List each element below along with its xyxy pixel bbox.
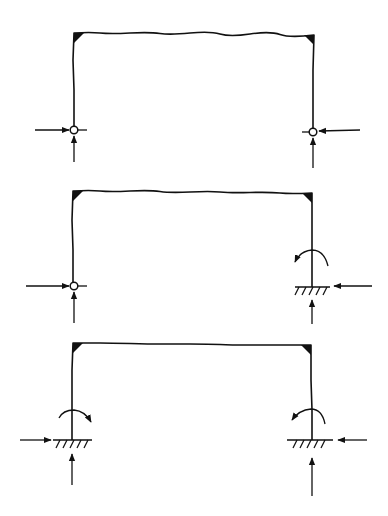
frame-2-right-fixed-support bbox=[295, 250, 372, 324]
frame-2-left-pin-support bbox=[26, 282, 87, 323]
frame-1-outline bbox=[73, 32, 314, 128]
pin-icon bbox=[309, 128, 317, 136]
ground-hatch-icon bbox=[56, 440, 88, 448]
ground-hatch-icon bbox=[295, 287, 327, 295]
ground-hatch-icon bbox=[293, 440, 325, 448]
moment-reaction-arrow-icon bbox=[59, 410, 91, 422]
frame-1-left-knee-icon bbox=[74, 33, 84, 43]
frame-2 bbox=[26, 191, 372, 325]
frame-3-left-fixed-support bbox=[20, 410, 92, 485]
frame-3 bbox=[20, 343, 367, 496]
frame-3-outline bbox=[72, 343, 312, 440]
frame-3-right-fixed-support bbox=[287, 409, 367, 496]
portal-frames-diagram bbox=[0, 0, 388, 516]
frame-1-left-pin-support bbox=[35, 126, 87, 162]
frame-2-right-knee-icon bbox=[302, 193, 312, 203]
frame-3-left-knee-icon bbox=[73, 343, 83, 353]
frame-2-outline bbox=[72, 191, 312, 288]
frame-1 bbox=[35, 32, 360, 168]
frame-2-left-knee-icon bbox=[73, 191, 83, 201]
moment-reaction-arrow-icon bbox=[292, 409, 325, 424]
horizontal-reaction-arrow-icon bbox=[319, 130, 360, 131]
frame-3-right-knee-icon bbox=[301, 345, 311, 355]
frame-1-right-knee-icon bbox=[304, 35, 314, 45]
pin-icon bbox=[70, 282, 78, 290]
frame-1-right-pin-support bbox=[302, 128, 360, 168]
pin-icon bbox=[70, 126, 78, 134]
